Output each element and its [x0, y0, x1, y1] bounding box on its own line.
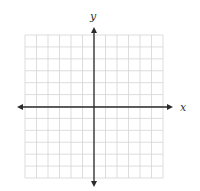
x-axis-right-arrow-icon [167, 104, 173, 110]
y-axis-up-arrow-icon [91, 27, 97, 33]
x-axis-left-arrow-icon [17, 104, 23, 110]
x-axis-label: x [180, 101, 187, 114]
coordinate-plane: x y [0, 0, 200, 191]
coordinate-grid-svg: x y [0, 0, 200, 191]
y-axis-down-arrow-icon [91, 181, 97, 187]
y-axis-label: y [89, 10, 97, 23]
axes [17, 27, 173, 187]
